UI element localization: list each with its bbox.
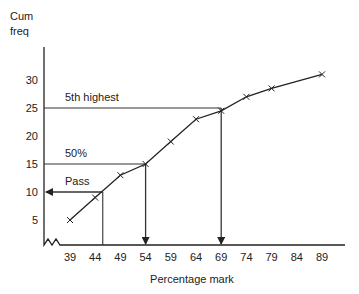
y-tick-label: 20 (26, 130, 38, 142)
data-point-marker (117, 172, 123, 178)
x-tick-label: 39 (64, 251, 76, 263)
annotation-label: 5th highest (65, 91, 119, 103)
x-axis-line-with-break (44, 237, 345, 245)
y-tick-label: 25 (26, 102, 38, 114)
x-tick-label: 89 (316, 251, 328, 263)
y-axis-title: Cum freq (10, 9, 33, 39)
x-tick-label: 84 (291, 251, 303, 263)
data-point-marker (67, 217, 73, 223)
x-tick-label: 49 (114, 251, 126, 263)
annotation-label: Pass (65, 175, 90, 187)
cumulative-frequency-chart: Cum freq 5101520253039444954596469747984… (0, 0, 359, 294)
y-axis-title-line-1: Cum (10, 9, 33, 24)
x-tick-label: 54 (139, 251, 151, 263)
y-tick-label: 15 (26, 158, 38, 170)
data-point-marker (243, 94, 249, 100)
annotation-label: 50% (65, 147, 87, 159)
y-axis-title-line-2: freq (10, 24, 33, 39)
chart-canvas: 510152025303944495459646974798489Percent… (0, 0, 359, 294)
y-tick-label: 10 (26, 186, 38, 198)
x-tick-label: 59 (165, 251, 177, 263)
y-tick-label: 30 (26, 74, 38, 86)
x-axis-title: Percentage mark (150, 273, 234, 285)
x-tick-label: 74 (240, 251, 252, 263)
y-tick-label: 5 (32, 214, 38, 226)
data-point-marker (168, 139, 174, 145)
x-tick-label: 64 (190, 251, 202, 263)
data-point-marker (193, 116, 199, 122)
x-tick-label: 69 (215, 251, 227, 263)
x-tick-label: 79 (265, 251, 277, 263)
data-point-marker (92, 195, 98, 201)
x-tick-label: 44 (89, 251, 101, 263)
